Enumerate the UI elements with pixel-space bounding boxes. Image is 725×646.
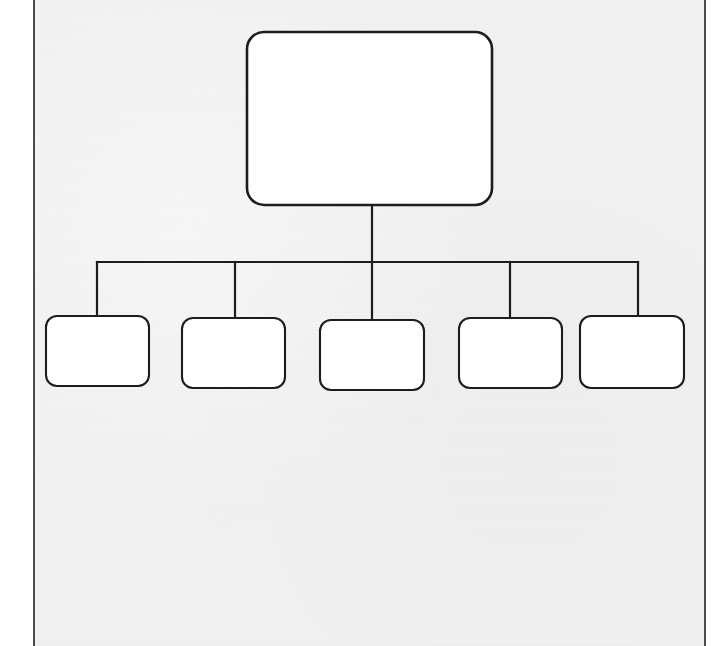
- page-border-left: [33, 0, 35, 646]
- page-sheet: [34, 0, 705, 646]
- page-border-right: [704, 0, 706, 646]
- scanned-page-canvas: [0, 0, 725, 646]
- paper-grain-texture: [34, 0, 705, 646]
